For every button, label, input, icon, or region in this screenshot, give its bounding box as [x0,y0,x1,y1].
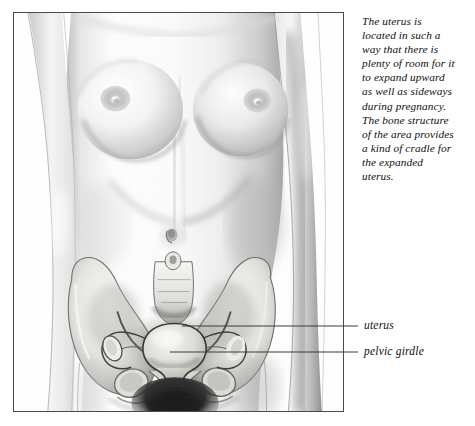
illustration-plate [13,12,344,412]
callout-label-pelvic-girdle: pelvic girdle [364,345,424,357]
illustration-page: The uterus is located in such a way that… [0,0,475,426]
anatomy-drawing [14,13,343,411]
caption-text: The uterus is located in such a way that… [362,14,474,183]
callout-label-uterus: uterus [364,319,394,331]
